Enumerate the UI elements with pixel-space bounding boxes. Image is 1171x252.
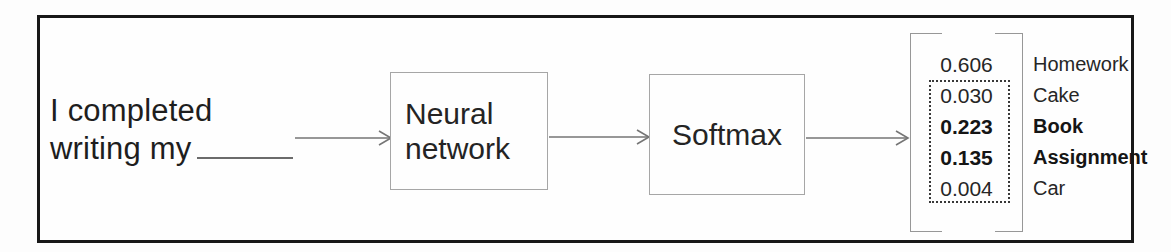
probability-row: 0.004Car <box>910 173 1162 204</box>
neural-network-label-line1: Neural <box>405 96 493 131</box>
arrow-network-to-softmax-icon <box>549 129 651 145</box>
class-label: Car <box>1033 177 1065 200</box>
input-sentence: I completed writing my <box>50 92 293 168</box>
class-label: Homework <box>1033 53 1129 76</box>
input-sentence-line1: I completed <box>50 92 293 130</box>
class-label: Book <box>1033 115 1083 138</box>
figure-frame: I completed writing my Neural network So… <box>37 15 1134 243</box>
probability-row: 0.135Assignment <box>910 142 1162 173</box>
neural-network-box: Neural network <box>390 72 548 190</box>
probability-value: 0.606 <box>910 53 1023 77</box>
output-vector: 0.606Homework0.030Cake0.223Book0.135Assi… <box>910 33 1162 233</box>
blank-underline <box>197 135 293 159</box>
probability-row: 0.030Cake <box>910 80 1162 111</box>
probability-value: 0.135 <box>910 146 1023 170</box>
softmax-label: Softmax <box>672 117 782 152</box>
class-label: Cake <box>1033 84 1080 107</box>
arrow-input-to-network-icon <box>295 130 393 146</box>
neural-network-label-line2: network <box>405 131 510 166</box>
probability-value: 0.030 <box>910 84 1023 108</box>
arrow-softmax-to-output-icon <box>806 130 910 146</box>
probability-rows: 0.606Homework0.030Cake0.223Book0.135Assi… <box>910 49 1162 204</box>
input-sentence-line2: writing my <box>50 130 293 168</box>
probability-value: 0.223 <box>910 115 1023 139</box>
class-label: Assignment <box>1033 146 1147 169</box>
probability-row: 0.606Homework <box>910 49 1162 80</box>
probability-row: 0.223Book <box>910 111 1162 142</box>
softmax-box: Softmax <box>649 74 805 195</box>
probability-value: 0.004 <box>910 177 1023 201</box>
